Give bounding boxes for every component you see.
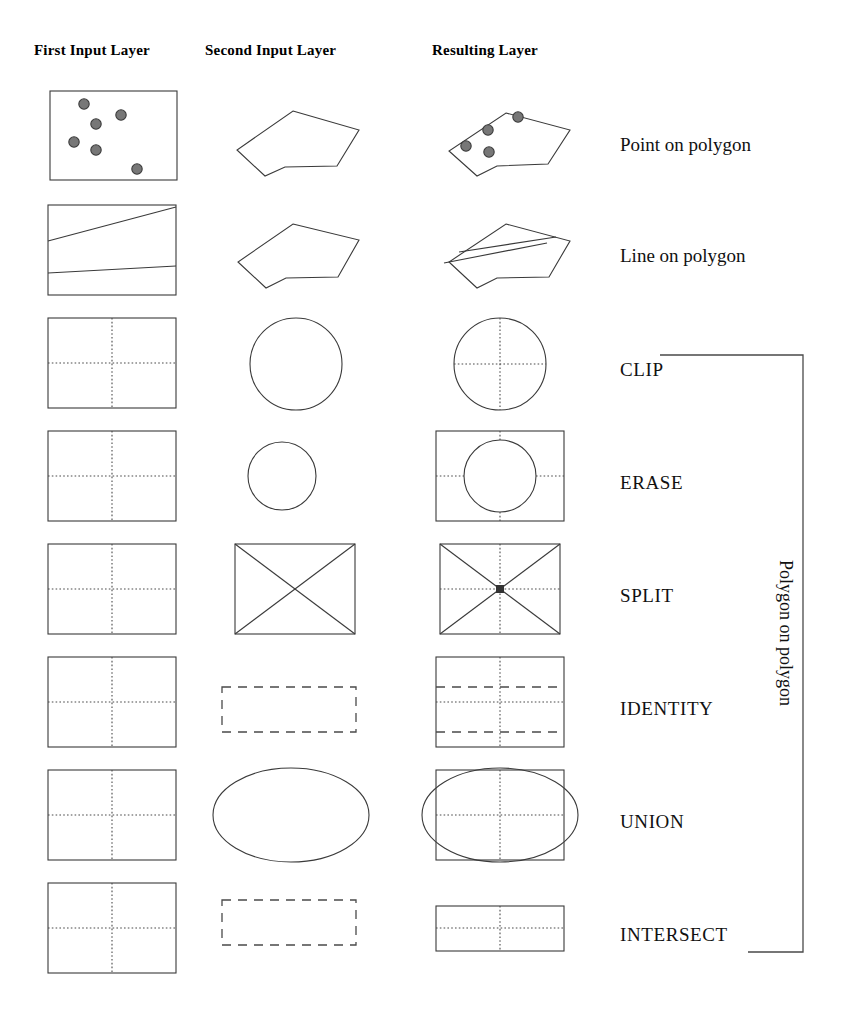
- bracket-label-polygon-on-polygon: Polygon on polygon: [775, 560, 796, 706]
- row-erase-result: [436, 431, 564, 521]
- row-label-point-on-polygon: Point on polygon: [620, 134, 751, 156]
- row-label-erase: ERASE: [620, 472, 683, 494]
- row-label-line-on-polygon: Line on polygon: [620, 245, 746, 267]
- row-clip-second: [250, 318, 342, 410]
- row-label-clip: CLIP: [620, 359, 664, 381]
- row-union-result: [422, 768, 578, 862]
- row-split-second: [235, 544, 355, 634]
- column-header-second-input: Second Input Layer: [205, 42, 336, 59]
- row-erase-first: [48, 431, 176, 521]
- row-erase-second: [248, 442, 316, 510]
- row-line-on-polygon-second: [238, 224, 359, 288]
- row-point-on-polygon-result: [449, 112, 570, 176]
- row-label-split: SPLIT: [620, 585, 674, 607]
- column-header-first-input: First Input Layer: [34, 42, 150, 59]
- row-clip-first: [48, 318, 176, 408]
- row-point-on-polygon-second: [237, 111, 359, 176]
- row-clip-result: [454, 318, 546, 410]
- row-intersect-result: [436, 906, 564, 951]
- row-intersect-first: [48, 883, 176, 973]
- column-header-resulting: Resulting Layer: [432, 42, 538, 59]
- diagram-canvas: First Input Layer Second Input Layer Res…: [0, 0, 844, 1014]
- row-label-union: UNION: [620, 811, 684, 833]
- row-union-first: [48, 770, 176, 860]
- row-identity-result: [436, 657, 564, 747]
- row-line-on-polygon-result: [444, 224, 570, 288]
- row-point-on-polygon-first: [50, 91, 177, 180]
- row-split-result: [440, 544, 560, 634]
- row-label-identity: IDENTITY: [620, 698, 713, 720]
- row-identity-second: [222, 687, 356, 732]
- row-union-second: [213, 768, 369, 862]
- row-line-on-polygon-first: [48, 205, 176, 295]
- row-intersect-second: [222, 900, 356, 945]
- row-split-first: [48, 544, 176, 634]
- row-label-intersect: INTERSECT: [620, 924, 728, 946]
- row-identity-first: [48, 657, 176, 747]
